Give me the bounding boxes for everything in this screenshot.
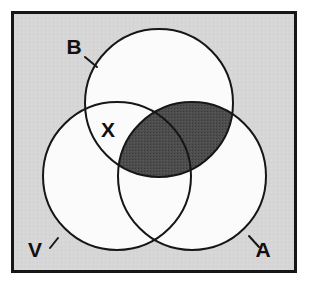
venn-diagram-figure: B V A X — [0, 0, 314, 284]
set-label-v: V — [28, 238, 42, 261]
set-label-a: A — [255, 238, 270, 261]
region-label-x: X — [101, 118, 115, 141]
set-label-b: B — [66, 35, 81, 58]
venn-diagram-canvas: B V A X — [0, 0, 314, 284]
